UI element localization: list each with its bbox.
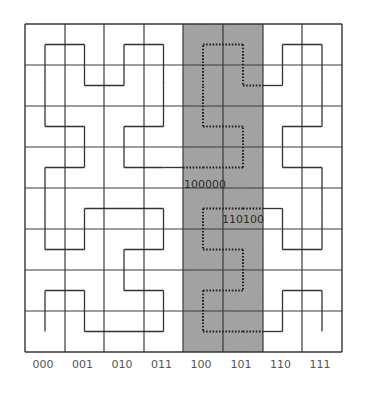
- x-axis-label: 000: [33, 358, 54, 371]
- x-axis-label: 100: [191, 358, 212, 371]
- hilbert-curve-diagram: 100000110100 000001010011100101110111: [0, 0, 365, 396]
- x-axis-label: 001: [72, 358, 93, 371]
- x-axis-label: 101: [231, 358, 252, 371]
- code-annotation: 110100: [222, 213, 264, 226]
- x-axis-label: 110: [270, 358, 291, 371]
- x-axis-label: 010: [112, 358, 133, 371]
- x-axis-label: 111: [310, 358, 331, 371]
- code-annotation: 100000: [184, 178, 226, 191]
- x-axis-labels: 000001010011100101110111: [33, 358, 331, 371]
- x-axis-label: 011: [151, 358, 172, 371]
